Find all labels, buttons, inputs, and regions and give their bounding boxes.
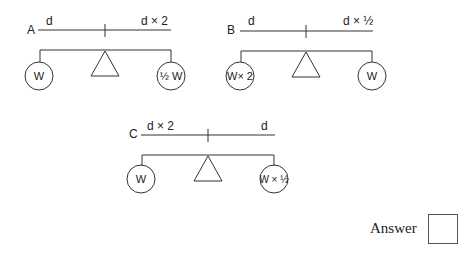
balance-c-right-weight-label: W × ½ (259, 174, 289, 185)
balance-c: C d × 2 d W W × ½ (127, 119, 289, 193)
balance-b: B d d × ½ W× 2 W (226, 14, 386, 90)
balance-b-right-weight-label: W (367, 70, 378, 82)
balance-c-right-distance: d (261, 119, 268, 133)
balance-a-fulcrum-triangle (91, 51, 119, 76)
balance-a-left-distance: d (46, 14, 53, 28)
balance-b-fulcrum-triangle (292, 52, 320, 77)
balance-b-left-weight-label: W× 2 (227, 70, 253, 82)
balance-a: A d d × 2 W ½ W (25, 14, 185, 90)
balance-a-right-distance: d × 2 (141, 14, 168, 28)
balance-a-label: A (27, 23, 35, 37)
balance-c-fulcrum-triangle (194, 156, 222, 181)
balance-c-left-weight-label: W (136, 173, 147, 185)
balance-a-right-weight-label: ½ W (160, 70, 183, 82)
balance-c-left-distance: d × 2 (147, 119, 174, 133)
balance-a-left-weight-label: W (34, 70, 45, 82)
balance-b-left-distance: d (248, 14, 255, 28)
balance-b-label: B (227, 23, 235, 37)
answer-box[interactable] (428, 214, 458, 244)
answer-label: Answer (370, 220, 417, 237)
balance-b-right-distance: d × ½ (343, 14, 373, 28)
balance-c-label: C (129, 127, 138, 141)
